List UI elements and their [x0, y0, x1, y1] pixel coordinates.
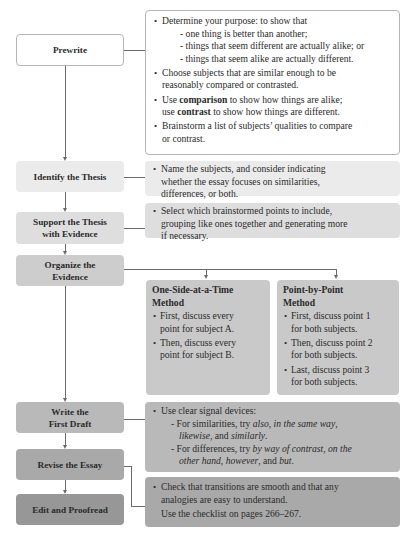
step-label-line2: with Evidence	[42, 228, 97, 240]
step-edit-proofread: Edit and Proofread	[16, 494, 124, 525]
bullet-choose-subjects: Choose subjects that are similar enough …	[154, 67, 393, 92]
arrow-down-icon	[334, 275, 338, 279]
connector-prewrite-notes	[124, 50, 145, 51]
bullet-text: whether the essay focuses on similaritie…	[161, 176, 320, 187]
sub-text: .	[291, 455, 293, 466]
prewrite-notes: Determine your purpose: to show that - o…	[145, 10, 400, 155]
edit-notes: Check that transitions are smooth and th…	[145, 477, 400, 527]
step-write-first-draft: Write the First Draft	[16, 402, 124, 433]
essay-process-flowchart: Prewrite Identify the Thesis Support the…	[0, 0, 416, 539]
bullet-brainstorm: Brainstorm a list of subjects’ qualities…	[154, 120, 393, 145]
term-comparison: comparison	[179, 94, 227, 105]
bullet-text: grouping like ones together and generati…	[161, 218, 348, 229]
sub-item-differences-cont: other hand, however, and but.	[161, 455, 394, 468]
sub-text: - For differences, try	[171, 443, 253, 454]
connector-write-revise	[65, 433, 66, 445]
checklist-reference: Use the checklist on pages 266–267.	[153, 508, 394, 521]
method-item: Then, discuss point 2for both subjects.	[283, 337, 394, 362]
signal-word: however	[226, 455, 259, 466]
sub-text: .	[265, 430, 267, 441]
method-title: Point-by-PointMethod	[283, 284, 394, 309]
bullet-text: Check that transitions are smooth and th…	[161, 481, 339, 492]
sub-item-differences: - For differences, try by way of contras…	[161, 443, 394, 456]
method-item: Then, discuss everypoint for subject B.	[152, 337, 265, 362]
step-label: Identify the Thesis	[34, 171, 107, 183]
step-label-line2: First Draft	[49, 418, 92, 430]
step-label: Edit and Proofread	[32, 504, 108, 516]
item-text: for both subjects.	[291, 323, 357, 334]
bullet-text: differences, or both.	[161, 188, 238, 199]
step-label: Revise the Essay	[38, 459, 103, 471]
step-identify-thesis: Identify the Thesis	[16, 161, 124, 192]
bullet-text: reasonably compared or contrasted.	[162, 79, 298, 90]
connector-prewrite-identify	[65, 66, 66, 158]
connector-write-notes	[124, 419, 146, 420]
signal-word: by way of contrast	[253, 443, 324, 454]
term-contrast: contrast	[177, 106, 211, 117]
arrow-down-icon	[204, 275, 208, 279]
method-title-line1: One-Side-at-a-Time	[152, 284, 233, 295]
step-label-line1: Organize the	[45, 259, 96, 271]
step-label-line1: Write the	[51, 406, 88, 418]
connector-organize-methods	[124, 269, 337, 270]
sub-text: , and	[258, 455, 279, 466]
step-label-line1: Support the Thesis	[33, 216, 107, 228]
sub-text: ,	[335, 418, 337, 429]
item-text: for both subjects.	[291, 376, 357, 387]
item-text: Then, discuss point 2	[291, 337, 373, 348]
bullet-purpose: Determine your purpose: to show that - o…	[154, 15, 393, 65]
step-label: Prewrite	[53, 44, 87, 56]
bullet-text: or contrast.	[162, 133, 205, 144]
sub-item: - things that seem different are actuall…	[162, 40, 393, 53]
method-title-line2: Method	[152, 297, 184, 308]
step-prewrite: Prewrite	[16, 34, 124, 66]
method-title: One-Side-at-a-TimeMethod	[152, 284, 265, 309]
step-revise-essay: Revise the Essay	[16, 449, 124, 480]
method-item: Last, discuss point 3for both subjects.	[283, 364, 394, 389]
bullet-text: Use	[162, 94, 179, 105]
signal-word: on the	[328, 443, 352, 454]
method-point-by-point: Point-by-PointMethod First, discuss poin…	[277, 280, 399, 395]
connector-identify-notes	[124, 177, 145, 178]
connector-organize-write	[65, 286, 66, 399]
support-notes: Select which brainstormed points to incl…	[145, 203, 400, 238]
signal-word: likewise	[179, 430, 210, 441]
method-item: First, discuss everypoint for subject A.	[152, 310, 265, 335]
item-text: First, discuss point 1	[291, 310, 370, 321]
bullet-text: analogies are easy to understand.	[161, 494, 288, 505]
bullet-signal-devices: Use clear signal devices: - For similari…	[153, 405, 394, 468]
bullet-text: to show how things are different.	[211, 106, 340, 117]
connector-revise-v	[131, 466, 132, 507]
bullet-text: Use clear signal devices:	[161, 405, 256, 416]
item-text: for both subjects.	[291, 349, 357, 360]
write-notes: Use clear signal devices: - For similari…	[145, 402, 400, 472]
sub-text: - For similarities, try	[171, 418, 253, 429]
connector-support-notes	[124, 228, 145, 229]
signal-word: but	[279, 455, 291, 466]
bullet-comparison-contrast: Use comparison to show how things are al…	[154, 94, 393, 119]
sub-item-similarities-cont: likewise, and similarly.	[161, 430, 394, 443]
method-title-line2: Method	[283, 297, 315, 308]
sub-text: , and	[210, 430, 231, 441]
method-item: First, discuss point 1for both subjects.	[283, 310, 394, 335]
item-text: point for subject A.	[160, 323, 234, 334]
bullet-name-subjects: Name the subjects, and consider indicati…	[153, 163, 394, 201]
bullet-select-points: Select which brainstormed points to incl…	[153, 205, 394, 243]
signal-word: other hand	[179, 455, 221, 466]
sub-item-similarities: - For similarities, try also, in the sam…	[161, 418, 394, 431]
bullet-text: Select which brainstormed points to incl…	[161, 205, 332, 216]
signal-word: also	[253, 418, 269, 429]
bullet-text: use	[162, 106, 177, 117]
identify-notes: Name the subjects, and consider indicati…	[145, 161, 400, 196]
bullet-text: if necessary.	[161, 230, 208, 241]
method-title-line1: Point-by-Point	[283, 284, 343, 295]
bullet-check-transitions: Check that transitions are smooth and th…	[153, 481, 394, 506]
connector-revise-edit	[65, 480, 66, 490]
step-support-thesis: Support the Thesis with Evidence	[16, 212, 124, 244]
item-text: Then, discuss every	[160, 337, 236, 348]
sub-item: - one thing is better than another;	[162, 28, 393, 41]
step-organize-evidence: Organize the Evidence	[16, 255, 124, 286]
item-text: Last, discuss point 3	[291, 364, 369, 375]
step-label-line2: Evidence	[52, 271, 88, 283]
signal-word: in the same way	[274, 418, 336, 429]
